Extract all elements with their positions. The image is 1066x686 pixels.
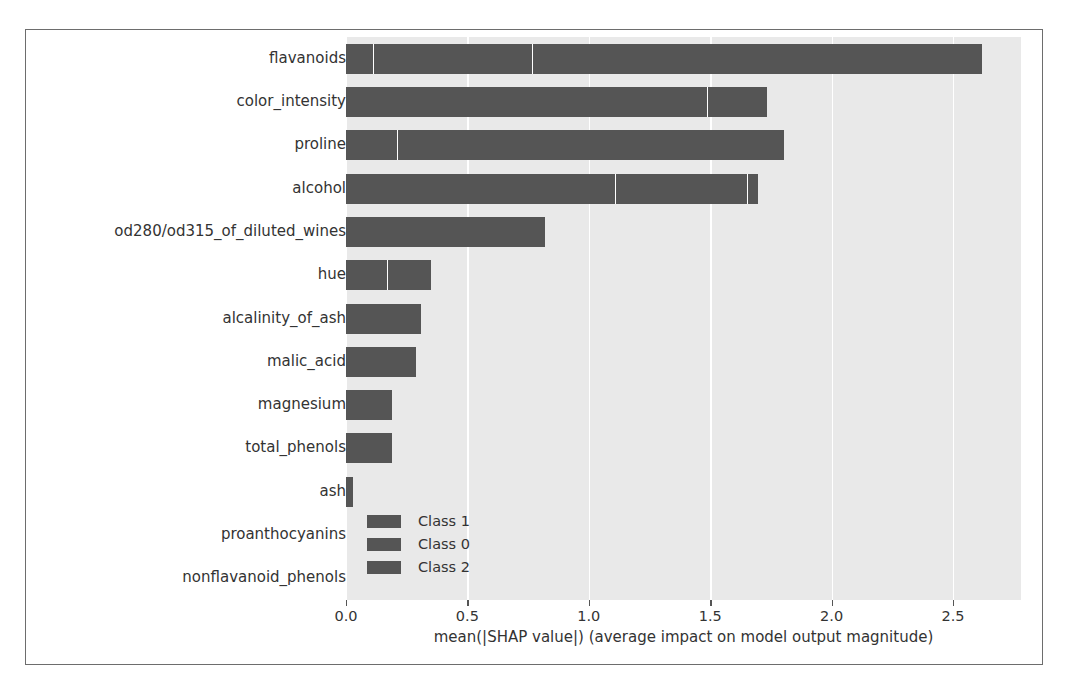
x-tick-label-5: 2.5 (941, 608, 964, 624)
y-tick-label-2: proline (46, 137, 346, 152)
y-axis-tick-labels: flavanoidscolor_intensityprolinealcoholo… (36, 30, 346, 664)
y-tick-label-9: total_phenols (46, 440, 346, 455)
x-tick-label-0: 0.0 (334, 608, 357, 624)
bar-segment-0[interactable] (346, 433, 392, 463)
gridline-x-2 (589, 37, 590, 600)
bar-row[interactable] (346, 260, 431, 290)
x-tick-label-3: 1.5 (699, 608, 722, 624)
bar-segment-0[interactable] (346, 174, 616, 204)
bar-row[interactable] (346, 130, 784, 160)
y-tick-label-12: nonflavanoid_phenols (46, 570, 346, 585)
y-tick-label-6: alcalinity_of_ash (46, 311, 346, 326)
y-tick-label-3: alcohol (46, 181, 346, 196)
y-tick-label-0: flavanoids (46, 51, 346, 66)
figure-frame: flavanoidscolor_intensityprolinealcoholo… (25, 29, 1043, 665)
bar-row[interactable] (346, 87, 767, 117)
bar-segment-0[interactable] (346, 44, 374, 74)
bar-segment-0[interactable] (346, 477, 353, 507)
bar-segment-1[interactable] (708, 87, 767, 117)
bar-segment-0[interactable] (346, 87, 708, 117)
y-tick-label-4: od280/od315_of_diluted_wines (46, 224, 346, 239)
bar-row[interactable] (346, 174, 758, 204)
legend: Class 1Class 0Class 2 (367, 514, 470, 575)
bar-segment-1[interactable] (374, 44, 533, 74)
x-tick-mark-5 (953, 600, 954, 606)
bar-row[interactable] (346, 347, 416, 377)
y-tick-label-7: malic_acid (46, 354, 346, 369)
bar-segment-2[interactable] (748, 174, 758, 204)
bar-segment-0[interactable] (346, 130, 398, 160)
bar-segment-1[interactable] (388, 260, 430, 290)
legend-item[interactable]: Class 2 (367, 560, 470, 575)
legend-item[interactable]: Class 0 (367, 537, 470, 552)
bar-row[interactable] (346, 433, 392, 463)
legend-swatch-2 (367, 561, 401, 574)
bar-row[interactable] (346, 44, 982, 74)
y-tick-label-11: proanthocyanins (46, 527, 346, 542)
bar-segment-0[interactable] (346, 260, 388, 290)
legend-swatch-0 (367, 515, 401, 528)
legend-item[interactable]: Class 1 (367, 514, 470, 529)
x-tick-label-4: 2.0 (820, 608, 843, 624)
y-tick-label-1: color_intensity (46, 94, 346, 109)
x-tick-label-2: 1.0 (577, 608, 600, 624)
x-tick-mark-1 (467, 600, 468, 606)
plot-area: Class 1Class 0Class 2 (346, 37, 1021, 600)
bar-row[interactable] (346, 217, 545, 247)
gridline-x-5 (953, 37, 954, 600)
x-tick-mark-4 (832, 600, 833, 606)
gridline-x-3 (710, 37, 711, 600)
y-tick-label-5: hue (46, 267, 346, 282)
bar-segment-0[interactable] (346, 390, 392, 420)
bar-segment-2[interactable] (533, 44, 982, 74)
legend-label-1: Class 0 (418, 537, 470, 552)
bar-segment-0[interactable] (346, 217, 545, 247)
bar-row[interactable] (346, 477, 353, 507)
bar-segment-0[interactable] (346, 304, 421, 334)
legend-label-2: Class 2 (418, 560, 470, 575)
legend-label-0: Class 1 (418, 514, 470, 529)
x-tick-mark-0 (346, 600, 347, 606)
x-tick-mark-2 (589, 600, 590, 606)
bar-segment-1[interactable] (616, 174, 748, 204)
bar-row[interactable] (346, 390, 392, 420)
x-tick-mark-3 (710, 600, 711, 606)
gridline-x-4 (832, 37, 833, 600)
y-tick-label-10: ash (46, 484, 346, 499)
y-tick-label-8: magnesium (46, 397, 346, 412)
legend-swatch-1 (367, 538, 401, 551)
bar-row[interactable] (346, 304, 421, 334)
bar-segment-0[interactable] (346, 347, 416, 377)
x-axis-label: mean(|SHAP value|) (average impact on mo… (346, 628, 1021, 646)
x-tick-label-1: 0.5 (456, 608, 479, 624)
bar-segment-1[interactable] (398, 130, 784, 160)
